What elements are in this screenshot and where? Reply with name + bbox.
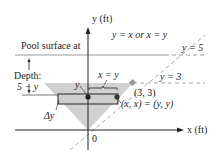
strip-width-label: x = y xyxy=(97,69,119,80)
x-axis-arrow-icon xyxy=(177,128,184,133)
depth-expression: 5 − y xyxy=(17,81,39,92)
xy-point-dot xyxy=(114,94,119,99)
pool-diagram: y (ft) x (ft) 0 Pool surface at y = x or… xyxy=(0,0,220,157)
y-axis-dot xyxy=(85,94,90,99)
up-arrow-icon xyxy=(28,58,31,62)
delta-y-label: Δy xyxy=(43,110,55,121)
y5-label: y = 5 xyxy=(181,42,203,53)
y-axis-arrow-icon xyxy=(86,27,91,34)
origin-label: 0 xyxy=(92,133,97,144)
x-axis-label: x (ft) xyxy=(187,124,207,136)
diagonal-label: y = x or x = y xyxy=(111,29,168,40)
y-axis-label: y (ft) xyxy=(92,13,112,25)
pool-surface-label: Pool surface at xyxy=(21,40,81,51)
point-xy-label: (x, x) = (y, y) xyxy=(121,98,174,110)
depth-label: Depth: xyxy=(14,70,41,81)
y3-label: y = 3 xyxy=(159,71,181,82)
y-marker-label: y xyxy=(74,79,80,90)
